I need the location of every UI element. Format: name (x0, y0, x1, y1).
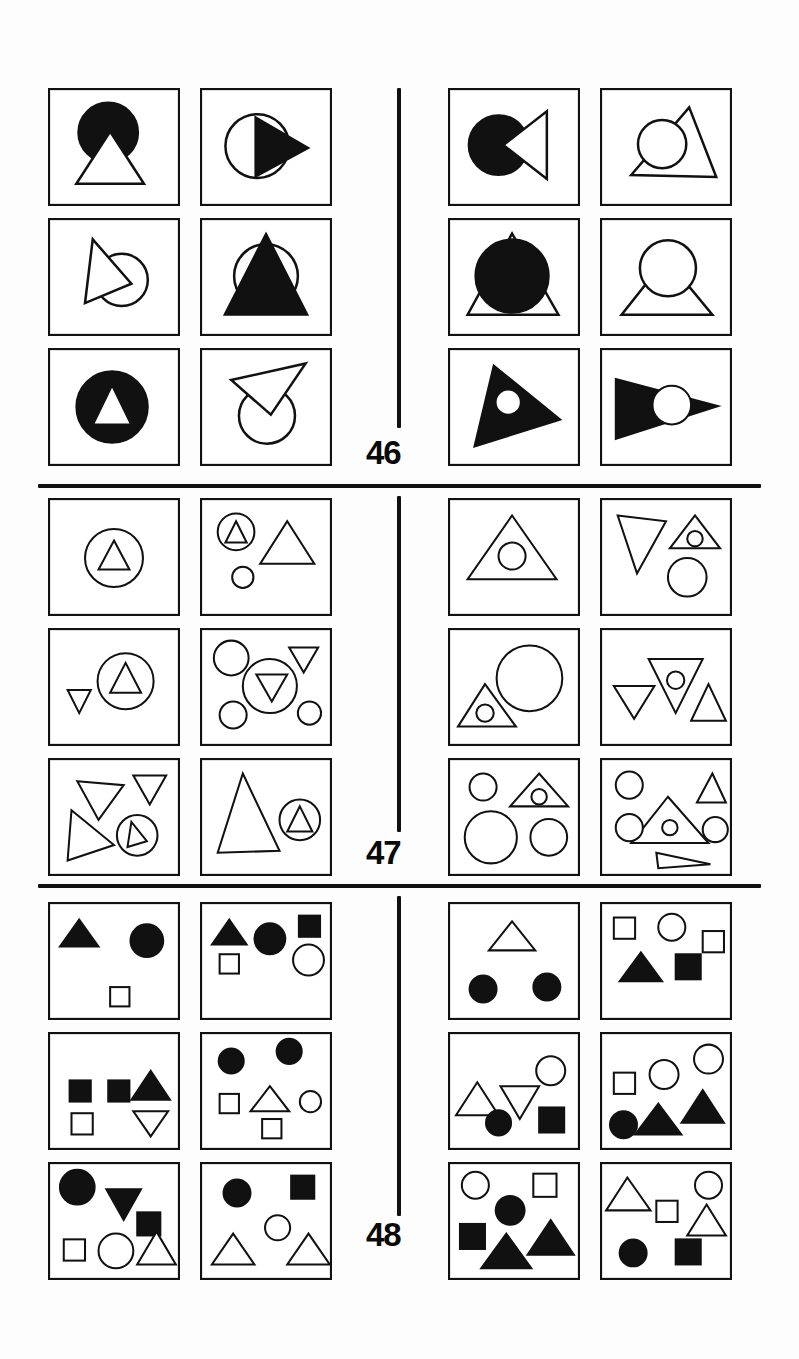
section-48-left-grid (48, 902, 332, 1286)
panel-48-left-r1c1[interactable] (48, 902, 180, 1020)
panel-48-right-r1c2[interactable] (600, 902, 732, 1020)
panel-47-right-r1c1[interactable] (448, 498, 580, 616)
panel-47-right-r2c1[interactable] (448, 628, 580, 746)
panel-46-left-r1c1[interactable] (48, 88, 180, 206)
section-47-right-grid (448, 498, 732, 882)
vertical-divider-47 (397, 496, 401, 832)
panel-46-left-r2c2[interactable] (200, 218, 332, 336)
stimulus-sheet: 46 47 48 (0, 0, 799, 1359)
panel-47-left-r3c1[interactable] (48, 758, 180, 876)
panel-47-left-r3c2[interactable] (200, 758, 332, 876)
panel-47-left-r2c2[interactable] (200, 628, 332, 746)
panel-47-right-r3c1[interactable] (448, 758, 580, 876)
panel-48-left-r2c2[interactable] (200, 1032, 332, 1150)
section-divider-rule-1 (38, 484, 761, 488)
panel-46-left-r3c2[interactable] (200, 348, 332, 466)
section-46-right-grid (448, 88, 732, 472)
panel-47-left-r1c2[interactable] (200, 498, 332, 616)
panel-48-left-r2c1[interactable] (48, 1032, 180, 1150)
panel-48-left-r1c2[interactable] (200, 902, 332, 1020)
section-number-48: 48 (366, 1216, 401, 1254)
panel-48-right-r2c2[interactable] (600, 1032, 732, 1150)
section-divider-rule-2 (38, 884, 761, 888)
panel-48-left-r3c1[interactable] (48, 1162, 180, 1280)
vertical-divider-48 (397, 896, 401, 1216)
panel-46-right-r2c1[interactable] (448, 218, 580, 336)
section-46-left-grid (48, 88, 332, 472)
panel-47-right-r2c2[interactable] (600, 628, 732, 746)
vertical-divider-46 (397, 88, 401, 428)
panel-47-left-r1c1[interactable] (48, 498, 180, 616)
panel-46-right-r3c2[interactable] (600, 348, 732, 466)
panel-47-right-r3c2[interactable] (600, 758, 732, 876)
panel-48-right-r3c2[interactable] (600, 1162, 732, 1280)
panel-47-right-r1c2[interactable] (600, 498, 732, 616)
panel-48-right-r1c1[interactable] (448, 902, 580, 1020)
panel-48-right-r3c1[interactable] (448, 1162, 580, 1280)
section-number-47: 47 (366, 834, 401, 872)
section-number-46: 46 (366, 434, 401, 472)
panel-48-left-r3c2[interactable] (200, 1162, 332, 1280)
section-48-right-grid (448, 902, 732, 1286)
panel-46-left-r3c1[interactable] (48, 348, 180, 466)
panel-46-right-r2c2[interactable] (600, 218, 732, 336)
panel-46-right-r1c1[interactable] (448, 88, 580, 206)
section-47-left-grid (48, 498, 332, 882)
panel-46-left-r2c1[interactable] (48, 218, 180, 336)
panel-46-right-r3c1[interactable] (448, 348, 580, 466)
panel-48-right-r2c1[interactable] (448, 1032, 580, 1150)
panel-46-left-r1c2[interactable] (200, 88, 332, 206)
panel-47-left-r2c1[interactable] (48, 628, 180, 746)
panel-46-right-r1c2[interactable] (600, 88, 732, 206)
